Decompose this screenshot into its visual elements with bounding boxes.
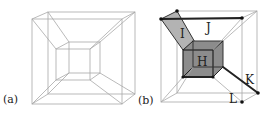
edge [161, 77, 183, 102]
edge [223, 11, 257, 41]
edge [242, 11, 257, 18]
edge [213, 77, 242, 102]
vertex-dot [181, 75, 184, 78]
vertex-dot [159, 17, 163, 21]
edge [32, 80, 56, 104]
inner-front-square [56, 49, 90, 80]
vertex-dot [240, 100, 244, 104]
panel-a-label: (a) [3, 93, 18, 106]
edge [56, 42, 69, 49]
label-L: L [229, 92, 237, 106]
edge [32, 12, 48, 19]
vertex-dot [175, 9, 179, 13]
panel-b: H I J K L (b) [138, 9, 260, 107]
label-J: J [204, 21, 211, 35]
edge [100, 12, 135, 42]
edge [48, 12, 69, 42]
panel-b-label: (b) [138, 94, 154, 107]
vertex-dot [240, 16, 244, 20]
edge [100, 73, 135, 94]
vertex-dot [211, 75, 214, 78]
panel-a: (a) [3, 12, 135, 106]
edge-J [161, 18, 242, 19]
edge [90, 73, 100, 80]
figure: (a) [0, 0, 272, 117]
edge [161, 93, 177, 102]
edge [32, 19, 56, 49]
edge [122, 94, 135, 104]
label-H: H [197, 55, 207, 69]
inner-back-square [69, 42, 100, 73]
edge [48, 73, 69, 94]
label-I: I [180, 27, 185, 41]
vertex-dot [256, 91, 260, 95]
edge [213, 18, 242, 50]
label-K: K [245, 73, 255, 87]
edge [242, 93, 258, 102]
edge [90, 19, 122, 49]
